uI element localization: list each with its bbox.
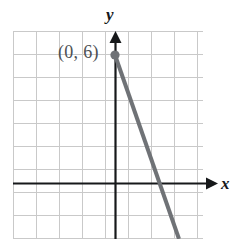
y-intercept-label: (0, 6) [58, 43, 99, 61]
y-axis-label: y [106, 6, 114, 23]
y-intercept-point [110, 50, 119, 59]
grid-lines [13, 31, 203, 239]
x-axis-label: x [221, 175, 230, 192]
graph-figure: y x (0, 6) [0, 0, 237, 239]
coordinate-plane [0, 0, 237, 239]
